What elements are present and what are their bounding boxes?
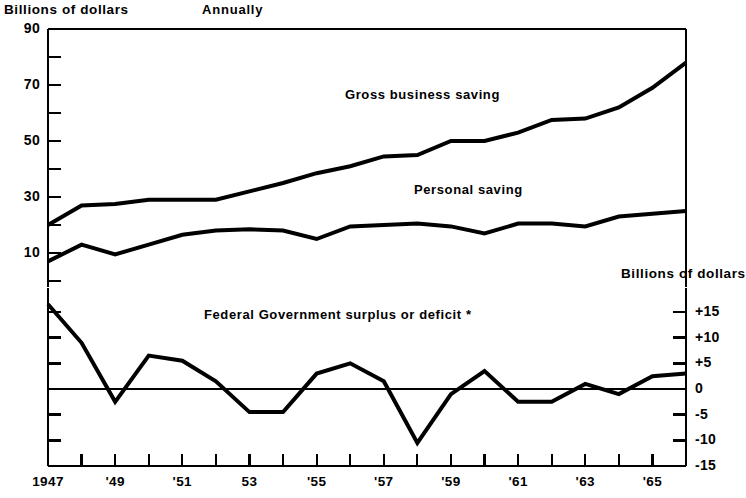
x-tick-label-1955: '55 bbox=[287, 474, 347, 489]
x-tick-label-1963: '63 bbox=[555, 474, 615, 489]
x-tick-label-1953: 53 bbox=[219, 474, 279, 489]
y-tick-label-upper-90: 90 bbox=[0, 20, 40, 36]
x-tick-label-1957: '57 bbox=[354, 474, 414, 489]
y-tick-label-upper-30: 30 bbox=[0, 188, 40, 204]
y-tick-label-lower-0: 0 bbox=[695, 380, 703, 396]
x-tick-label-1965: '65 bbox=[622, 474, 682, 489]
y-tick-label-lower--10: -10 bbox=[695, 431, 716, 447]
series-line-federal-government bbox=[48, 304, 686, 443]
x-tick-label-1961: '61 bbox=[488, 474, 548, 489]
y-tick-label-lower-5: +5 bbox=[695, 354, 712, 370]
x-tick-label-1951: '51 bbox=[152, 474, 212, 489]
x-tick-label-1949: '49 bbox=[85, 474, 145, 489]
y-tick-label-lower-10: +10 bbox=[695, 329, 720, 345]
x-tick-label-1959: '59 bbox=[421, 474, 481, 489]
y-tick-label-upper-50: 50 bbox=[0, 132, 40, 148]
y-tick-label-lower--15: -15 bbox=[695, 457, 716, 473]
y-tick-label-lower-15: +15 bbox=[695, 303, 720, 319]
y-tick-label-upper-10: 10 bbox=[0, 244, 40, 260]
y-tick-label-upper-70: 70 bbox=[0, 76, 40, 92]
series-line-gross-business-saving bbox=[48, 63, 686, 225]
y-tick-label-lower--5: -5 bbox=[695, 406, 708, 422]
series-layer bbox=[48, 63, 686, 443]
x-tick-label-1947: 1947 bbox=[18, 474, 78, 489]
series-line-personal-saving bbox=[48, 211, 686, 261]
